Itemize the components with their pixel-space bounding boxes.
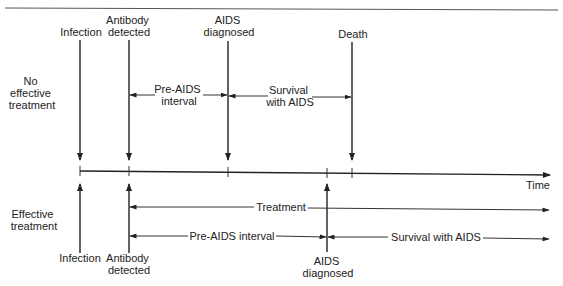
bottom-pre-aids-label: Pre-AIDS interval — [190, 230, 275, 242]
bottom-event-infection-label: Infection — [59, 252, 101, 264]
bottom-event-aids-label: AIDS diagnosed — [303, 255, 354, 279]
aids-timeline-diagram: No effective treatment Effective treatme… — [0, 0, 563, 286]
bottom-treatment-right-arrow — [308, 208, 549, 210]
top-survival-label: Survival with AIDS — [265, 84, 314, 108]
time-axis — [80, 171, 550, 175]
time-axis-label: Time — [526, 179, 550, 191]
top-event-aids-label: AIDS diagnosed — [204, 14, 255, 38]
section-label-no-treatment: No effective treatment — [9, 75, 55, 111]
top-event-death-label: Death — [338, 28, 367, 40]
top-rule — [5, 8, 558, 10]
bottom-pre-aids-right-arrow — [276, 236, 326, 237]
bottom-treatment-label: Treatment — [256, 201, 306, 213]
bottom-survival-label: Survival with AIDS — [391, 231, 481, 243]
bottom-event-antibody-label: Antibody detected — [106, 252, 152, 276]
top-event-infection-label: Infection — [60, 26, 102, 38]
bottom-survival-right-arrow — [483, 238, 549, 239]
top-event-antibody-label: Antibody detected — [106, 14, 152, 38]
top-pre-aids-label: Pre-AIDS interval — [154, 83, 204, 107]
section-label-effective-treatment: Effective treatment — [11, 208, 57, 232]
